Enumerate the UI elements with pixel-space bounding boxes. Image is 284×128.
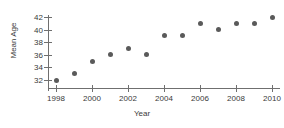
data-point	[234, 21, 239, 26]
data-point	[216, 27, 221, 32]
y-axis-tick-label: 34	[23, 63, 43, 72]
x-axis-tick	[56, 85, 57, 92]
x-axis-tick-label: 2006	[191, 94, 209, 103]
x-axis-tick-label: 2000	[83, 94, 101, 103]
x-axis-tick	[236, 85, 237, 92]
x-axis-tick	[164, 85, 165, 92]
y-axis-tick	[44, 55, 52, 56]
y-axis-title: Mean Age	[9, 14, 18, 68]
y-axis-tick	[44, 42, 52, 43]
y-axis-tick	[44, 80, 52, 81]
y-axis-tick-label: 36	[23, 50, 43, 59]
scatter-chart: 323436384042 199820002002200420062008201…	[0, 0, 284, 128]
y-axis-tick	[44, 67, 52, 68]
data-point	[144, 52, 149, 57]
y-axis-tick-label: 38	[23, 38, 43, 47]
y-axis-tick-label: 40	[23, 25, 43, 34]
y-axis-tick-label: 42	[23, 13, 43, 22]
y-axis-tick	[44, 17, 52, 18]
y-axis-tick-label: 32	[23, 76, 43, 85]
x-axis-tick	[92, 85, 93, 92]
x-axis-tick-label: 2002	[119, 94, 137, 103]
x-axis-tick	[128, 85, 129, 92]
x-axis-tick-label: 2010	[263, 94, 281, 103]
x-axis-tick-label: 2008	[227, 94, 245, 103]
data-point	[270, 15, 275, 20]
data-point	[180, 33, 185, 38]
x-axis-tick	[200, 85, 201, 92]
data-point	[72, 71, 77, 76]
x-axis-tick	[272, 85, 273, 92]
data-point	[126, 46, 131, 51]
data-point	[252, 21, 257, 26]
data-point	[162, 33, 167, 38]
data-point	[54, 78, 59, 83]
y-axis-tick	[44, 30, 52, 31]
data-point	[198, 21, 203, 26]
data-point	[108, 52, 113, 57]
data-point	[90, 59, 95, 64]
x-axis-tick-label: 2004	[155, 94, 173, 103]
x-axis-tick-label: 1998	[47, 94, 65, 103]
x-axis-title: Year	[0, 109, 284, 118]
